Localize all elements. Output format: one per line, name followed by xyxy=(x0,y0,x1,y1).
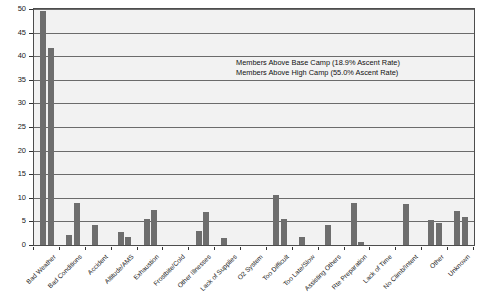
bar-chart: 05101520253035404550 Members Above Base … xyxy=(0,0,482,305)
y-tick-label: 45 xyxy=(18,29,26,37)
bar xyxy=(125,237,131,245)
bar xyxy=(92,225,98,245)
x-tick-label: Bad Weather xyxy=(0,253,58,305)
x-tick-mark xyxy=(33,247,34,250)
gridline xyxy=(34,103,474,104)
bar xyxy=(436,223,442,245)
y-tick-label: 15 xyxy=(18,170,26,178)
bar xyxy=(40,11,46,245)
x-axis: Bad WeatherBad ConditionsAccidentAltitud… xyxy=(33,247,475,305)
x-tick-mark xyxy=(240,247,241,250)
bar xyxy=(151,210,157,245)
x-tick-mark xyxy=(318,247,319,250)
x-tick-mark xyxy=(162,247,163,250)
legend-entry: Members Above Base Camp (18.9% Ascent Ra… xyxy=(236,58,400,68)
x-tick-mark xyxy=(421,247,422,250)
gridline xyxy=(34,9,474,10)
bar xyxy=(281,219,287,245)
plot-area xyxy=(33,8,475,246)
y-tick-label: 25 xyxy=(18,123,26,131)
x-tick-mark xyxy=(395,247,396,250)
x-tick-mark xyxy=(85,247,86,250)
y-tick-label: 40 xyxy=(18,52,26,60)
bar xyxy=(273,195,279,245)
bar xyxy=(66,235,72,245)
bar xyxy=(118,232,124,245)
x-tick-mark xyxy=(292,247,293,250)
x-tick-mark xyxy=(111,247,112,250)
x-tick-mark xyxy=(447,247,448,250)
y-tick-label: 0 xyxy=(22,241,26,249)
bar xyxy=(196,231,202,245)
gridline xyxy=(34,127,474,128)
y-tick-label: 5 xyxy=(22,217,26,225)
y-tick-label: 50 xyxy=(18,5,26,13)
bar xyxy=(358,242,364,245)
y-tick-label: 30 xyxy=(18,99,26,107)
bar xyxy=(462,217,468,245)
bar xyxy=(203,212,209,246)
x-tick-mark xyxy=(266,247,267,250)
chart-legend: Members Above Base Camp (18.9% Ascent Ra… xyxy=(236,58,400,78)
bar xyxy=(144,219,150,245)
x-tick-mark xyxy=(473,247,474,250)
bar xyxy=(325,225,331,245)
bar xyxy=(403,204,409,245)
gridline xyxy=(34,198,474,199)
bar xyxy=(454,211,460,245)
legend-entry: Members Above High Camp (55.0% Ascent Ra… xyxy=(236,68,400,78)
y-tick-label: 10 xyxy=(18,194,26,202)
y-tick-label: 35 xyxy=(18,76,26,84)
bar xyxy=(428,220,434,245)
gridline xyxy=(34,80,474,81)
x-tick-mark xyxy=(344,247,345,250)
y-tick-label: 20 xyxy=(18,147,26,155)
bar xyxy=(74,203,80,245)
x-tick-mark xyxy=(188,247,189,250)
gridline xyxy=(34,174,474,175)
bar xyxy=(48,48,54,245)
bar xyxy=(299,237,305,245)
y-axis: 05101520253035404550 xyxy=(0,0,33,254)
gridline xyxy=(34,151,474,152)
x-tick-mark xyxy=(369,247,370,250)
x-tick-mark xyxy=(59,247,60,250)
bar xyxy=(351,203,357,245)
bar xyxy=(221,238,227,245)
x-tick-mark xyxy=(214,247,215,250)
gridline xyxy=(34,33,474,34)
x-tick-mark xyxy=(137,247,138,250)
